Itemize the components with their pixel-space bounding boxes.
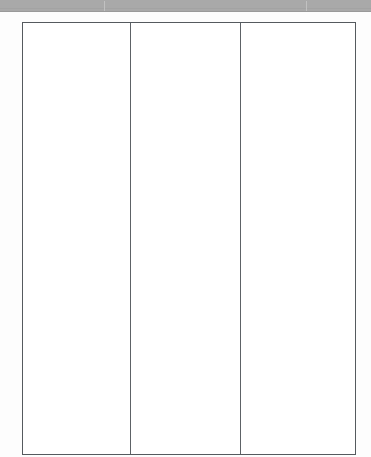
table-cell-1-text — [23, 23, 130, 31]
table-column-2 — [131, 23, 241, 454]
table-cell-3-text — [241, 23, 355, 31]
table-column-3 — [241, 23, 355, 454]
three-column-table — [22, 22, 356, 455]
scan-tick-left-icon — [104, 1, 105, 11]
table-cell-2-text — [131, 23, 240, 31]
scan-tick-right-icon — [306, 1, 307, 11]
scan-edge-strip — [0, 0, 371, 12]
page-paper-area — [0, 12, 371, 457]
scan-seam-line — [0, 8, 371, 9]
scanned-document-page — [0, 0, 371, 457]
table-column-1 — [23, 23, 131, 454]
